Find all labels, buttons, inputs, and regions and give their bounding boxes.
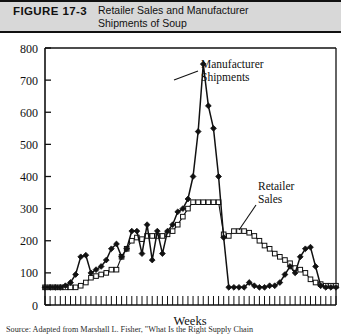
y-tick-label: 0 xyxy=(32,299,38,313)
x-axis-ticks xyxy=(45,296,336,305)
data-point-marker xyxy=(206,200,211,205)
retailer-leader-line xyxy=(239,205,256,230)
data-point-marker xyxy=(242,229,247,234)
data-point-marker xyxy=(195,129,201,135)
data-point-marker xyxy=(298,267,303,272)
chart-plot-area: 0100200300400500600700800 Manufacturer S… xyxy=(0,33,341,335)
data-point-marker xyxy=(99,272,104,277)
data-point-marker xyxy=(216,174,222,180)
data-point-marker xyxy=(308,244,314,250)
data-point-marker xyxy=(150,234,155,239)
figure-title-line-1: Retailer Sales and Manufacturer xyxy=(98,4,336,17)
data-point-marker xyxy=(201,200,206,205)
manufacturer-annotation-line-2: Shipments xyxy=(201,71,250,84)
manufacturer-annotation-line-1: Manufacturer xyxy=(201,58,264,70)
figure-root: FIGURE 17-3 Retailer Sales and Manufactu… xyxy=(0,0,341,335)
data-point-marker xyxy=(175,222,180,227)
y-tick-label: 300 xyxy=(20,202,38,216)
y-tick-label: 700 xyxy=(20,74,38,88)
y-tick-label: 600 xyxy=(20,106,38,120)
data-point-marker xyxy=(170,229,175,234)
data-point-marker xyxy=(262,284,268,290)
y-tick-label: 200 xyxy=(20,234,38,248)
data-point-marker xyxy=(308,277,313,282)
data-point-marker xyxy=(252,234,257,239)
y-tick-label: 100 xyxy=(20,266,38,280)
retailer-annotation-line-1: Retailer xyxy=(258,180,295,192)
figure-title: Retailer Sales and Manufacturer Shipment… xyxy=(98,4,336,29)
soup-shipments-line-chart: 0100200300400500600700800 Manufacturer S… xyxy=(0,33,341,335)
data-point-marker xyxy=(144,222,150,228)
data-point-marker xyxy=(232,229,237,234)
data-point-marker xyxy=(247,230,252,235)
data-point-marker xyxy=(160,251,166,257)
manufacturer-leader-line xyxy=(174,71,198,80)
data-point-marker xyxy=(303,271,308,276)
data-point-marker xyxy=(104,271,109,276)
figure-number: FIGURE 17-3 xyxy=(13,5,87,17)
data-point-marker xyxy=(257,238,262,243)
y-tick-label: 400 xyxy=(20,170,38,184)
data-point-marker xyxy=(211,200,216,205)
data-point-marker xyxy=(191,200,196,205)
data-point-marker xyxy=(272,251,277,256)
data-point-marker xyxy=(278,255,283,260)
data-point-marker xyxy=(186,206,191,211)
retailer-annotation-line-2: Sales xyxy=(258,193,283,205)
data-point-marker xyxy=(139,251,145,257)
data-point-marker xyxy=(73,285,78,290)
figure-header-band: FIGURE 17-3 Retailer Sales and Manufactu… xyxy=(0,0,341,33)
series-retailer-sales xyxy=(43,200,339,290)
data-point-marker xyxy=(226,234,231,239)
data-point-marker xyxy=(109,267,114,272)
series-retailer-line xyxy=(45,202,336,287)
series-manufacturer-shipments xyxy=(42,61,339,290)
data-point-marker xyxy=(160,234,165,239)
data-point-marker xyxy=(283,258,288,263)
y-tick-label: 800 xyxy=(20,42,38,56)
data-point-marker xyxy=(84,280,89,285)
header-top-rule xyxy=(0,0,341,2)
data-point-marker xyxy=(262,243,267,248)
data-point-marker xyxy=(78,283,83,288)
y-tick-label: 500 xyxy=(20,138,38,152)
data-point-marker xyxy=(114,267,119,272)
data-point-marker xyxy=(83,252,89,258)
data-point-marker xyxy=(78,254,84,260)
data-point-marker xyxy=(211,125,217,131)
source-note: Source: Adapted from Marshall L. Fisher,… xyxy=(6,325,341,334)
data-point-marker xyxy=(190,174,196,180)
data-point-marker xyxy=(196,200,201,205)
data-point-marker xyxy=(267,246,272,251)
data-point-marker xyxy=(149,257,155,263)
data-point-marker xyxy=(94,274,99,279)
data-point-marker xyxy=(313,280,318,285)
data-point-marker xyxy=(185,196,191,202)
data-point-marker xyxy=(313,264,319,270)
data-point-marker xyxy=(205,103,211,109)
y-axis-ticks: 0100200300400500600700800 xyxy=(20,42,51,313)
figure-title-line-2: Shipments of Soup xyxy=(98,17,336,30)
data-point-marker xyxy=(181,214,186,219)
data-point-marker xyxy=(134,228,140,234)
